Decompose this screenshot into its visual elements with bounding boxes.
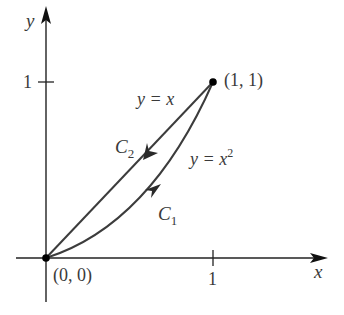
c1-equation-label: y = x2 — [188, 146, 233, 169]
c2-equation: y = x — [135, 89, 174, 109]
c2-equation-label: y = x — [135, 89, 174, 109]
end-point-label: (1, 1) — [224, 70, 263, 91]
x-tick-label: 1 — [208, 269, 217, 289]
line-integral-diagram: y x 1 1 (0, 0) (1, 1) y = x C2 y = x2 C1 — [0, 0, 344, 315]
curve-c2-line — [46, 82, 213, 258]
c1-direction-arrow-icon — [145, 184, 161, 198]
c2-name: C — [115, 136, 128, 157]
c1-subscript: 1 — [171, 213, 178, 228]
c2-label: C2 — [115, 136, 134, 161]
c1-equation-exponent: 2 — [227, 146, 233, 160]
origin-label: (0, 0) — [53, 265, 92, 286]
end-point — [209, 78, 217, 86]
c2-direction-arrow-icon — [143, 143, 158, 160]
c1-name: C — [158, 203, 171, 224]
c2-subscript: 2 — [128, 146, 135, 161]
origin-point — [42, 254, 50, 262]
c1-equation: y = x — [188, 149, 227, 169]
c1-label: C1 — [158, 203, 177, 228]
y-axis-label: y — [24, 10, 35, 31]
y-tick-label: 1 — [23, 72, 32, 92]
x-axis-label: x — [313, 261, 323, 282]
